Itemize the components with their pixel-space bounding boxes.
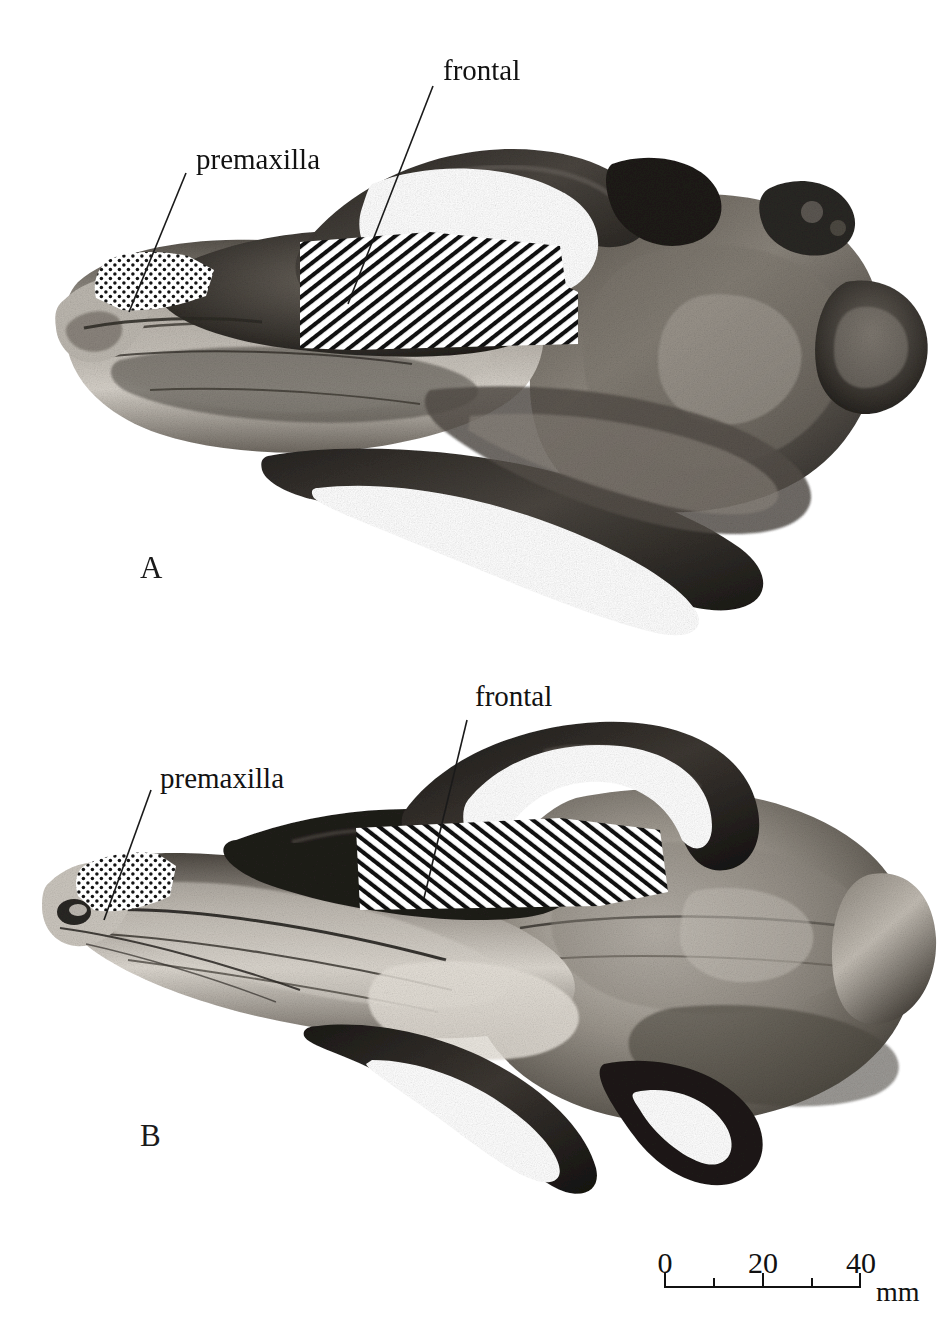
scale-label-20: 20 bbox=[748, 1248, 778, 1278]
leader-line-frontal-a bbox=[348, 86, 433, 304]
label-frontal-b: frontal bbox=[475, 682, 552, 711]
leader-line-premaxilla-a bbox=[129, 173, 186, 312]
scale-label-40: 40 bbox=[846, 1248, 876, 1278]
label-premaxilla-a: premaxilla bbox=[196, 145, 320, 174]
scale-unit-label: mm bbox=[876, 1278, 920, 1306]
scale-tick-30 bbox=[811, 1278, 813, 1287]
scale-tick-10 bbox=[713, 1278, 715, 1287]
scale-label-0: 0 bbox=[658, 1248, 673, 1278]
panel-letter-a: A bbox=[140, 552, 163, 583]
panel-a: premaxilla frontal A bbox=[0, 60, 952, 640]
panel-b: premaxilla frontal B bbox=[0, 660, 952, 1200]
panel-letter-b: B bbox=[140, 1120, 161, 1151]
leader-line-frontal-b bbox=[424, 720, 467, 898]
label-premaxilla-b: premaxilla bbox=[160, 764, 284, 793]
label-frontal-a: frontal bbox=[443, 56, 520, 85]
scale-bar: 0 20 40 mm bbox=[648, 1240, 948, 1330]
figure-plate: premaxilla frontal A bbox=[0, 0, 952, 1337]
leader-line-premaxilla-b bbox=[104, 790, 151, 920]
